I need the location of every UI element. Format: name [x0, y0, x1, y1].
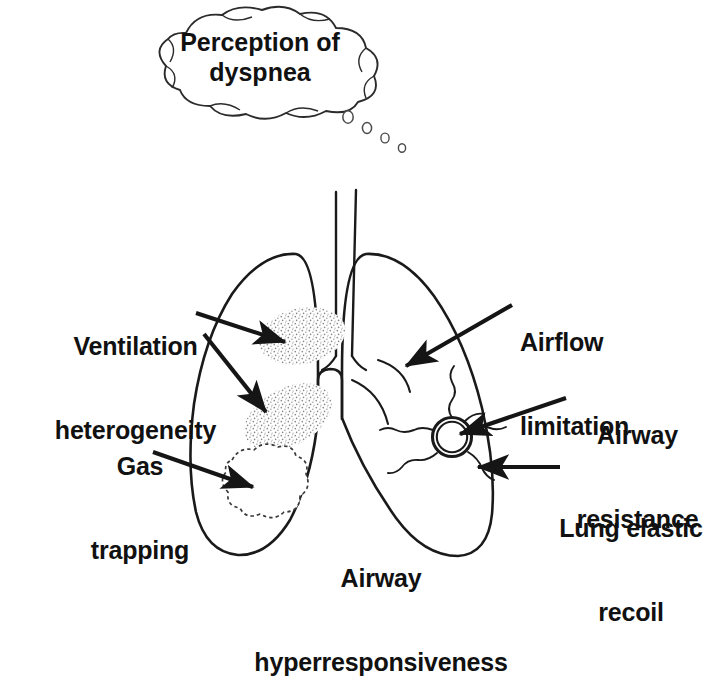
arrow-airflow-limitation — [406, 305, 512, 366]
label-ventilation-heterogeneity-line-1: Ventilation — [28, 332, 243, 360]
label-airway-hyperresponsiveness-line-1: Airway — [236, 564, 526, 592]
label-gas-trapping: Gas trapping — [60, 396, 220, 620]
thought-bubble-line-1: Perception of — [170, 28, 350, 58]
label-gas-trapping-line-2: trapping — [60, 536, 220, 564]
label-airflow-limitation-line-1: Airflow — [520, 328, 700, 356]
thought-bubble-text: Perception of dyspnea — [170, 28, 350, 87]
label-airway-resistance-line-1: Airway — [560, 421, 715, 449]
airway-cross-section — [433, 418, 472, 457]
thought-bubble-trail-dots — [343, 111, 406, 153]
airflow-limitation-arc — [352, 360, 410, 424]
label-gas-trapping-line-1: Gas — [60, 452, 220, 480]
thought-bubble-line-2: dyspnea — [170, 58, 350, 88]
label-airway-hyperresponsiveness-line-2: hyperresponsiveness — [236, 648, 526, 676]
label-lung-elastic-recoil: Lung elastic recoil — [545, 458, 717, 680]
label-airway-hyperresponsiveness: Airway hyperresponsiveness — [236, 508, 526, 680]
label-lung-elastic-recoil-line-1: Lung elastic — [545, 514, 717, 542]
bronchi — [322, 356, 366, 370]
label-lung-elastic-recoil-line-2: recoil — [545, 598, 717, 626]
